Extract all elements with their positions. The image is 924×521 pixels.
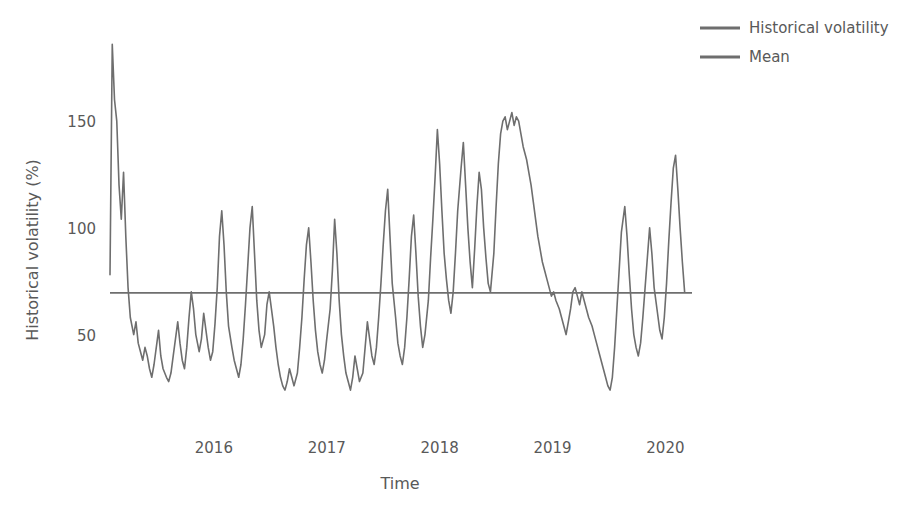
y-tick-label: 150 — [67, 113, 96, 131]
volatility-line-chart: 50 100 150 2016 2017 2018 2019 2020 Hist… — [0, 0, 924, 521]
x-tick-label: 2018 — [421, 439, 459, 457]
x-tick-label: 2020 — [646, 439, 684, 457]
legend-label-mean: Mean — [749, 48, 790, 66]
y-tick-label: 100 — [67, 220, 96, 238]
y-axis-tick-labels: 50 100 150 — [67, 113, 96, 345]
y-axis-title: Historical volatility (%) — [23, 159, 42, 341]
x-tick-label: 2017 — [308, 439, 346, 457]
chart-container: 50 100 150 2016 2017 2018 2019 2020 Hist… — [0, 0, 924, 521]
x-tick-label: 2016 — [195, 439, 233, 457]
x-axis-title: Time — [379, 474, 419, 493]
chart-legend: Historical volatility Mean — [700, 19, 889, 66]
legend-label-historical-volatility: Historical volatility — [749, 19, 889, 37]
x-axis-tick-labels: 2016 2017 2018 2019 2020 — [195, 439, 685, 457]
y-tick-label: 50 — [77, 327, 96, 345]
x-tick-label: 2019 — [533, 439, 571, 457]
historical-volatility-line — [110, 44, 685, 390]
